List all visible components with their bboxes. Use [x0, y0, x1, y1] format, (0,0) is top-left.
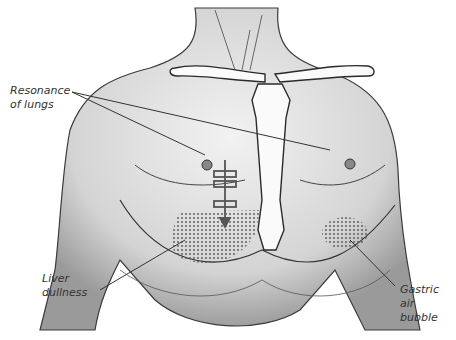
label-resonance-of-lungs: Resonance of lungs	[10, 84, 70, 112]
label-line: bubble	[400, 311, 456, 325]
label-line: Gastric air	[400, 283, 456, 311]
label-gastric-air-bubble: Gastric air bubble	[400, 283, 456, 325]
nipple-right	[345, 159, 355, 169]
label-liver-dullness: Liver dullness	[42, 272, 87, 300]
label-line: Liver	[42, 272, 87, 286]
gastric-bubble-area	[322, 217, 368, 249]
label-line: Resonance	[10, 84, 70, 98]
label-line: dullness	[42, 286, 87, 300]
nipple-left	[202, 160, 212, 170]
percussion-diagram: Resonance of lungs Liver dullness Gastri…	[0, 0, 456, 340]
label-line: of lungs	[10, 98, 70, 112]
